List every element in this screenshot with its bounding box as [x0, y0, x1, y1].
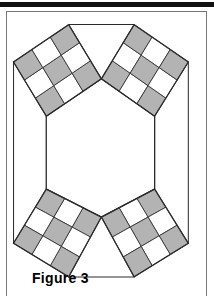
figure-page: Figure 3 — [0, 0, 214, 296]
figure-diagram — [7, 12, 207, 296]
page-top-rule — [0, 2, 214, 7]
figure-frame: Figure 3 — [6, 11, 207, 296]
figure-caption: Figure 3 — [32, 270, 89, 286]
